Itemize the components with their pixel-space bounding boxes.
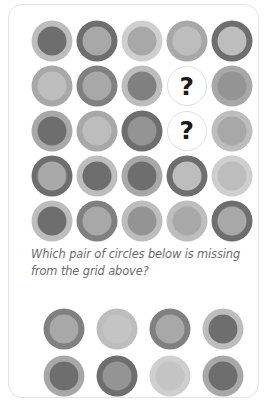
circle-center xyxy=(83,27,112,56)
grid-circle xyxy=(209,109,254,154)
grid-circle xyxy=(209,198,254,243)
answer-option-circle[interactable] xyxy=(37,305,90,352)
circle-center xyxy=(217,72,246,101)
circle-center xyxy=(83,116,112,145)
question-mark-icon: ? xyxy=(167,66,207,106)
circle-center xyxy=(102,361,131,390)
grid-circle xyxy=(75,198,120,243)
question-mark-icon: ? xyxy=(167,111,207,151)
circle-center xyxy=(127,206,156,235)
circle-center xyxy=(49,361,78,390)
grid-circle xyxy=(30,109,75,154)
circle-center xyxy=(217,161,246,190)
circle-center xyxy=(127,161,156,190)
answer-option-circle[interactable] xyxy=(90,305,143,352)
circle-center xyxy=(172,206,201,235)
answer-option-circle[interactable] xyxy=(143,352,196,398)
circle-center xyxy=(38,72,67,101)
grid-circle xyxy=(209,64,254,109)
grid-circle xyxy=(120,153,165,198)
missing-cell-placeholder: ? xyxy=(164,109,209,154)
grid-circle xyxy=(75,64,120,109)
grid-circle xyxy=(75,153,120,198)
grid-circle xyxy=(75,109,120,154)
puzzle-grid: ?? xyxy=(30,19,254,243)
answer-options-grid xyxy=(37,305,249,398)
answer-option-circle[interactable] xyxy=(90,352,143,398)
circle-center xyxy=(208,314,237,343)
circle-center xyxy=(38,206,67,235)
grid-circle xyxy=(30,64,75,109)
answer-option-circle[interactable] xyxy=(143,305,196,352)
grid-circle xyxy=(164,19,209,64)
circle-center xyxy=(83,206,112,235)
circle-center xyxy=(217,116,246,145)
circle-center xyxy=(172,27,201,56)
question-prompt: Which pair of circles below is missing f… xyxy=(31,246,249,279)
grid-circle xyxy=(209,19,254,64)
circle-center xyxy=(49,314,78,343)
grid-circle xyxy=(209,153,254,198)
circle-center xyxy=(102,314,131,343)
grid-circle xyxy=(164,153,209,198)
circle-center xyxy=(38,161,67,190)
answer-option-circle[interactable] xyxy=(37,352,90,398)
grid-circle xyxy=(30,198,75,243)
circle-center xyxy=(172,161,201,190)
missing-cell-placeholder: ? xyxy=(164,64,209,109)
circle-center xyxy=(208,361,237,390)
circle-center xyxy=(83,161,112,190)
answer-option-circle[interactable] xyxy=(196,352,249,398)
grid-circle xyxy=(164,198,209,243)
grid-circle xyxy=(30,19,75,64)
circle-center xyxy=(83,72,112,101)
puzzle-card: ?? Which pair of circles below is missin… xyxy=(8,4,259,398)
circle-center xyxy=(127,27,156,56)
circle-center xyxy=(155,314,184,343)
circle-center xyxy=(127,72,156,101)
grid-circle xyxy=(120,109,165,154)
circle-center xyxy=(217,206,246,235)
circle-center xyxy=(155,361,184,390)
circle-center xyxy=(38,27,67,56)
circle-center xyxy=(38,116,67,145)
grid-circle xyxy=(30,153,75,198)
grid-circle xyxy=(120,198,165,243)
circle-center xyxy=(127,116,156,145)
grid-circle xyxy=(120,64,165,109)
circle-center xyxy=(217,27,246,56)
grid-circle xyxy=(75,19,120,64)
answer-option-circle[interactable] xyxy=(196,305,249,352)
grid-circle xyxy=(120,19,165,64)
